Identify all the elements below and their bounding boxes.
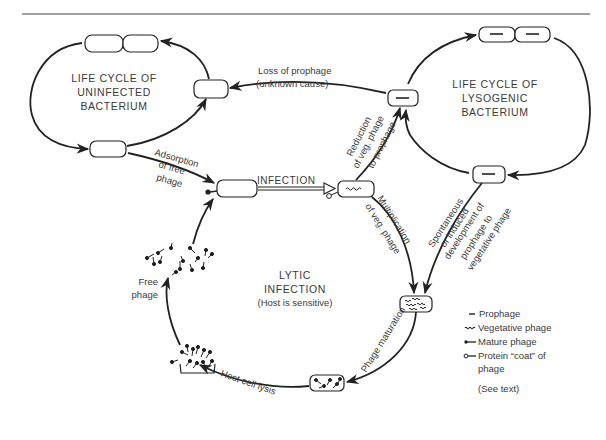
lysis-label: Host cell lysis [219,367,277,396]
attached-phage-tail [210,191,217,192]
legend-vegetative: Vegetative phage [478,322,551,333]
loss-label-1: Loss of prophage [258,65,331,76]
infected-cell [217,180,257,197]
lytic-title-3: (Host is sensitive) [258,297,333,308]
lytic-title-2: INFECTION [264,283,326,295]
empty-coat-tail [331,192,338,195]
uninfected-title-1: LIFE CYCLE OF [71,72,156,84]
lytic-title-1: LYTIC [279,269,311,281]
uninfected-path-top-right [161,41,209,79]
uninfected-title-3: BACTERIUM [80,100,147,112]
protein-coat-icon [464,354,468,358]
loss-of-prophage-transition: Loss of prophage (unknown cause) [230,65,386,93]
free-to-infection-arrow [193,199,213,244]
free-phage-label-1: Free [138,276,158,287]
uninfected-title-2: UNINFECTED [77,86,151,98]
uninfected-cell-right [194,80,228,98]
lysogenic-path-bottom-left [405,110,469,173]
burst-to-free-arrow [167,278,181,345]
burst-phage-cluster [170,344,213,368]
adsorption-transition: Adsorption of free phage [128,146,214,189]
legend-mature: Mature phage [478,336,537,347]
legend-see-text: (See text) [478,383,519,394]
loss-label-2: (unknown cause) [256,78,328,89]
lysogenic-cycle: LIFE CYCLE OF LYSOGENIC BACTERIUM [388,27,590,183]
lysogenic-title-2: LYSOGENIC [462,92,528,104]
free-phage-label-2: phage [132,289,158,300]
lysogenic-title-3: BACTERIUM [461,106,528,118]
dividing-cell-left [85,35,123,52]
legend: Prophage Vegetative phage Mature phage P… [464,308,551,394]
attached-phage-head [205,189,210,194]
uninfected-cell-bottom [90,141,126,157]
infection-arrowhead [324,183,335,194]
maturation-label: Phage maturation [358,305,407,374]
infection-transition: INFECTION [205,175,374,198]
phage-life-cycle-diagram: LIFE CYCLE OF UNINFECTED BACTERIUM LIFE … [0,0,606,440]
reduction-transition: Reduction of veg. phage to prophage [344,108,400,180]
vegetative-cell [338,181,374,197]
infection-label: INFECTION [257,175,315,186]
legend-protein-coat: Protein “coat” of [478,350,546,361]
vegetative-wave-icon [465,327,475,329]
dividing-cell-right [123,35,158,52]
multiplication-transition: Multiplication of veg. phage [363,193,414,293]
uninfected-cycle: LIFE CYCLE OF UNINFECTED BACTERIUM [30,35,228,157]
lysogenic-path-top-left [408,35,476,84]
legend-prophage: Prophage [479,308,520,319]
legend-protein-coat-cont: phage [478,363,504,374]
empty-protein-coat [327,194,332,199]
lysogenic-title-1: LIFE CYCLE OF [452,78,537,90]
free-phage-scatter [145,243,213,275]
spontaneous-transition: Spontaneous or induced development of pr… [425,183,513,293]
